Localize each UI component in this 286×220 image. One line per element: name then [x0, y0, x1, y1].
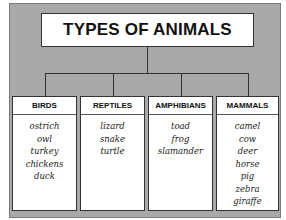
item-list: camel cow deer horse pig zebra giraffe — [217, 115, 278, 208]
connector-reptiles — [113, 73, 114, 96]
list-item: lizard — [81, 120, 144, 133]
list-item: turkey — [13, 145, 76, 158]
list-item: toad — [149, 120, 212, 133]
list-item: turtle — [81, 145, 144, 158]
item-list: ostrich owl turkey chickens duck — [13, 115, 76, 183]
list-item: zebra — [217, 183, 278, 196]
category-header: MAMMALS — [217, 97, 278, 115]
category-header: REPTILES — [81, 97, 144, 115]
diagram-title: TYPES OF ANIMALS — [63, 20, 232, 40]
list-item: duck — [13, 170, 76, 183]
list-item: snake — [81, 133, 144, 146]
list-item: pig — [217, 170, 278, 183]
list-item: chickens — [13, 158, 76, 171]
connector-amphibians — [181, 73, 182, 96]
connector-trunk — [147, 47, 148, 73]
list-item: slamander — [149, 145, 212, 158]
list-item: giraffe — [217, 195, 278, 208]
category-reptiles: REPTILES lizard snake turtle — [80, 96, 145, 211]
category-amphibians: AMPHIBIANS toad frog slamander — [148, 96, 213, 211]
list-item: ostrich — [13, 120, 76, 133]
list-item: camel — [217, 120, 278, 133]
item-list: toad frog slamander — [149, 115, 212, 158]
list-item: cow — [217, 133, 278, 146]
list-item: frog — [149, 133, 212, 146]
category-header: BIRDS — [13, 97, 76, 115]
connector-bar — [45, 73, 249, 74]
list-item: deer — [217, 145, 278, 158]
category-birds: BIRDS ostrich owl turkey chickens duck — [12, 96, 77, 211]
category-mammals: MAMMALS camel cow deer horse pig zebra g… — [216, 96, 279, 211]
connector-birds — [45, 73, 46, 96]
title-box: TYPES OF ANIMALS — [41, 13, 254, 47]
item-list: lizard snake turtle — [81, 115, 144, 158]
category-header: AMPHIBIANS — [149, 97, 212, 115]
connector-mammals — [248, 73, 249, 96]
list-item: owl — [13, 133, 76, 146]
list-item: horse — [217, 158, 278, 171]
